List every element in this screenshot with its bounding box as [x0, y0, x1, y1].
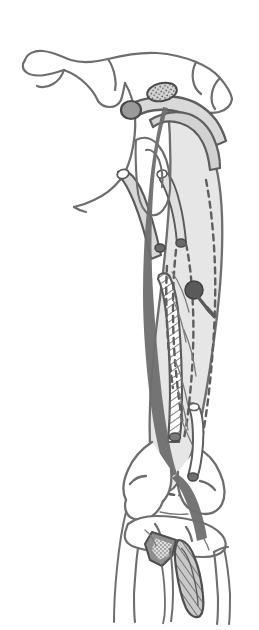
anatomical-figure: Anatomical line drawing of lower limb	[0, 0, 259, 630]
anatomy-diagram-svg	[0, 0, 259, 630]
mid-attachment-nodule	[155, 244, 165, 252]
patellar-tendon-tip	[189, 404, 199, 411]
patellar-tendon-end	[188, 473, 198, 481]
femoral-head	[121, 101, 141, 119]
fixation-marker-dot	[185, 281, 203, 299]
second-rod-end-cap	[176, 239, 186, 247]
graft-origin-nodule	[170, 433, 181, 441]
